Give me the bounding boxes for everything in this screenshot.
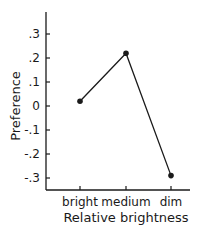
x-tick-label-medium: medium [101, 195, 150, 209]
line-chart: .3.2.10-.1-.2-.3 brightmediumdim Prefere… [0, 0, 204, 243]
data-point-bright [77, 98, 83, 104]
x-tick-label-bright: bright [62, 195, 98, 209]
data-series [77, 50, 174, 178]
y-tick-label: .1 [29, 75, 40, 89]
data-point-dim [168, 173, 174, 179]
axes [46, 12, 190, 190]
y-axis-label: Preference [8, 71, 23, 141]
preference-line [80, 53, 171, 175]
y-tick-label: -.1 [24, 123, 40, 137]
x-axis-label: Relative brightness [63, 210, 188, 225]
x-tick-label-dim: dim [160, 195, 183, 209]
y-tick-label: -.3 [24, 171, 40, 185]
y-tick-label: 0 [32, 99, 40, 113]
y-tick-label: -.2 [24, 147, 40, 161]
y-tick-label: .3 [29, 27, 40, 41]
data-point-medium [123, 50, 129, 56]
y-tick-label: .2 [29, 51, 40, 65]
